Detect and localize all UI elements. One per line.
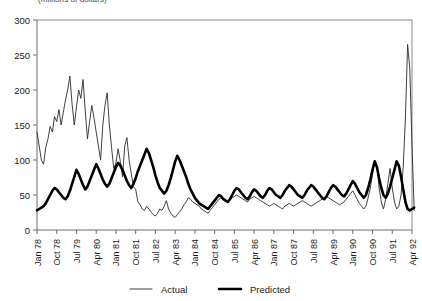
x-tick-label: Jul 88: [309, 239, 319, 263]
x-tick-label: Jul 91: [388, 239, 398, 263]
x-tick-label: Jul 85: [230, 239, 240, 263]
x-tick-label: Apr 83: [171, 239, 181, 266]
x-tick-label: Jan 87: [269, 239, 279, 266]
x-tick-label: Apr 92: [408, 239, 418, 266]
x-tick-label: Oct 84: [210, 239, 220, 266]
x-tick-label: Apr 80: [92, 239, 102, 266]
x-tick-label: Jul 79: [72, 239, 82, 263]
x-tick-label: Oct 81: [131, 239, 141, 266]
series-line-predicted: [37, 149, 414, 211]
x-tick-label: Apr 89: [329, 239, 339, 266]
y-tick-label: 100: [14, 155, 30, 166]
y-tick-label: 250: [14, 50, 30, 61]
x-tick-label: Jul 82: [151, 239, 161, 263]
legend-label-predicted: Predicted: [250, 284, 290, 295]
x-tick-label: Apr 86: [250, 239, 260, 266]
x-tick-label: Oct 78: [52, 239, 62, 266]
y-tick-label: 50: [19, 190, 30, 201]
legend-label-actual: Actual: [161, 284, 187, 295]
y-tick-label: 0: [25, 225, 30, 236]
y-tick-label: 200: [14, 85, 30, 96]
x-tick-label: Jan 81: [111, 239, 121, 266]
x-tick-label: Oct 90: [368, 239, 378, 266]
x-tick-label: Jan 90: [348, 239, 358, 266]
x-tick-label: Oct 87: [289, 239, 299, 266]
chart-plot-area: 050100150200250300Jan 78Oct 78Jul 79Apr …: [0, 0, 422, 301]
chart-container: (millions of dollars) 050100150200250300…: [0, 0, 422, 301]
x-tick-label: Jan 84: [190, 239, 200, 266]
y-tick-label: 150: [14, 120, 30, 131]
y-tick-label: 300: [14, 15, 30, 26]
x-tick-label: Jan 78: [33, 239, 43, 266]
